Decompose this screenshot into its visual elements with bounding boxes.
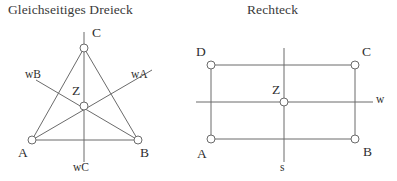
rectangle-vertex-marker-b <box>351 135 359 143</box>
rectangle-vertex-marker-a <box>207 135 215 143</box>
rectangle-vertex-marker-d <box>207 61 215 69</box>
rectangle-center-marker-z <box>280 98 288 106</box>
rectangle-axis-label-s: s <box>280 161 284 173</box>
rectangle-center-label-z: Z <box>272 82 280 98</box>
rectangle-vertex-label-b: B <box>363 144 372 160</box>
rectangle-vertex-label-a: A <box>197 146 207 162</box>
rectangle-vertex-label-c: C <box>362 44 371 60</box>
rectangle-vertex-marker-c <box>351 61 359 69</box>
rectangle-axis-label-w: w <box>376 93 384 105</box>
rectangle-vertex-label-d: D <box>196 44 206 60</box>
diagram-canvas: Gleichseitiges Dreieck C A B Z wA wB wC … <box>0 0 397 181</box>
